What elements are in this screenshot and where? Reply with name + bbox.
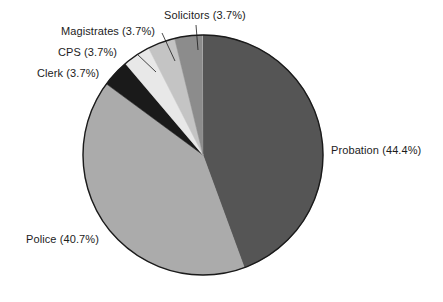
pie-chart-figure: Probation (44.4%) Police (40.7%) Clerk (… [0, 0, 443, 302]
slice-label-cps: CPS (3.7%) [58, 46, 117, 59]
slice-label-magistrates: Magistrates (3.7%) [61, 25, 155, 38]
slice-label-solicitors: Solicitors (3.7%) [164, 9, 246, 22]
slice-label-probation: Probation (44.4%) [331, 144, 421, 157]
pie-slice-group [83, 25, 323, 275]
slice-label-police: Police (40.7%) [26, 233, 99, 246]
slice-label-clerk: Clerk (3.7%) [37, 67, 99, 80]
